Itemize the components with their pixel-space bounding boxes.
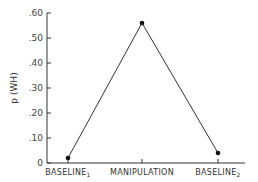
y-axis-label: p (WH) bbox=[9, 72, 19, 103]
x-tick-label: BASELINE1 bbox=[45, 168, 90, 178]
data-point-marker bbox=[66, 156, 71, 161]
data-point-marker bbox=[140, 21, 145, 26]
series-line bbox=[68, 23, 218, 158]
line-chart: 0.10.20.30.40.50.60 BASELINE1MANIPULATIO… bbox=[0, 0, 258, 182]
y-axis-ticks: 0.10.20.30.40.50.60 bbox=[29, 8, 51, 168]
y-tick-label: 0 bbox=[37, 158, 43, 168]
y-tick-label: .60 bbox=[29, 8, 44, 18]
x-axis-ticks: BASELINE1MANIPULATIONBASELINE2 bbox=[45, 159, 240, 178]
y-tick-label: .50 bbox=[29, 33, 44, 43]
axes bbox=[47, 13, 245, 163]
y-tick-label: .20 bbox=[29, 108, 44, 118]
x-tick-label: BASELINE2 bbox=[195, 168, 240, 178]
y-tick-label: .40 bbox=[29, 58, 44, 68]
data-point-marker bbox=[216, 151, 221, 156]
y-tick-label: .10 bbox=[29, 133, 44, 143]
data-series bbox=[66, 21, 221, 161]
y-tick-label: .30 bbox=[29, 83, 44, 93]
x-tick-label: MANIPULATION bbox=[110, 168, 174, 177]
